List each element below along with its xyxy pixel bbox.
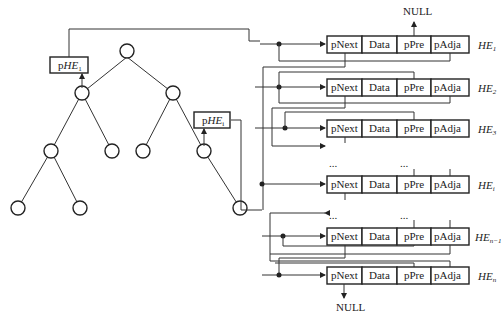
svg-text:HE1: HE1: [477, 39, 496, 53]
svg-text:...: ...: [400, 209, 409, 221]
svg-text:pNext: pNext: [331, 178, 358, 190]
tree-edges: [18, 57, 240, 208]
svg-text:HEn−1: HEn−1: [474, 231, 501, 245]
svg-text:pPre: pPre: [404, 178, 424, 190]
svg-text:pHEi: pHEi: [202, 114, 224, 128]
svg-text:HEn: HEn: [477, 270, 497, 284]
svg-text:HEi: HEi: [477, 179, 495, 193]
row-hen-1: pNextDatapPrepAdja HEn−1: [327, 228, 501, 245]
svg-text:pNext: pNext: [331, 38, 358, 50]
svg-text:...: ...: [329, 157, 338, 169]
svg-text:...: ...: [400, 157, 409, 169]
svg-text:Data: Data: [369, 178, 390, 190]
row-hei: pNextDatapPrepAdja HEi: [327, 176, 495, 193]
svg-text:Data: Data: [369, 81, 390, 93]
svg-text:HE3: HE3: [477, 123, 497, 137]
svg-text:Data: Data: [369, 230, 390, 242]
svg-text:...: ...: [329, 209, 338, 221]
svg-text:pNext: pNext: [331, 81, 358, 93]
svg-text:pNext: pNext: [331, 269, 358, 281]
svg-text:pPre: pPre: [404, 269, 424, 281]
svg-text:pAdja: pAdja: [434, 38, 461, 50]
svg-text:pAdja: pAdja: [434, 230, 461, 242]
pointer-box-phei: pHEi: [194, 112, 262, 210]
svg-text:pPre: pPre: [404, 38, 424, 50]
svg-text:pAdja: pAdja: [434, 269, 461, 281]
svg-text:Data: Data: [369, 269, 390, 281]
null-top-label: NULL: [403, 5, 433, 17]
row-he1: pNextDatapPrepAdja HE1: [327, 36, 496, 53]
svg-text:pAdja: pAdja: [434, 81, 461, 93]
half-edge-diagram: pHE1 pHEi pNextDatapPrepAdja HE1 pNextDa…: [0, 0, 501, 318]
row-hen: pNextDatapPrepAdja HEn: [327, 267, 497, 284]
row-he3: pNextDatapPrepAdja HE3: [327, 120, 497, 137]
tree-nodes: [11, 44, 247, 215]
svg-text:Data: Data: [369, 38, 390, 50]
row-he2: pNextDatapPrepAdja HE2: [327, 79, 497, 96]
svg-text:HE2: HE2: [477, 82, 497, 96]
svg-text:pAdja: pAdja: [434, 122, 461, 134]
svg-text:pPre: pPre: [404, 230, 424, 242]
svg-text:pPre: pPre: [404, 122, 424, 134]
svg-text:Data: Data: [369, 122, 390, 134]
svg-text:pPre: pPre: [404, 81, 424, 93]
svg-text:pAdja: pAdja: [434, 178, 461, 190]
svg-text:pNext: pNext: [331, 122, 358, 134]
null-bottom-label: NULL: [336, 301, 366, 313]
svg-text:pNext: pNext: [331, 230, 358, 242]
